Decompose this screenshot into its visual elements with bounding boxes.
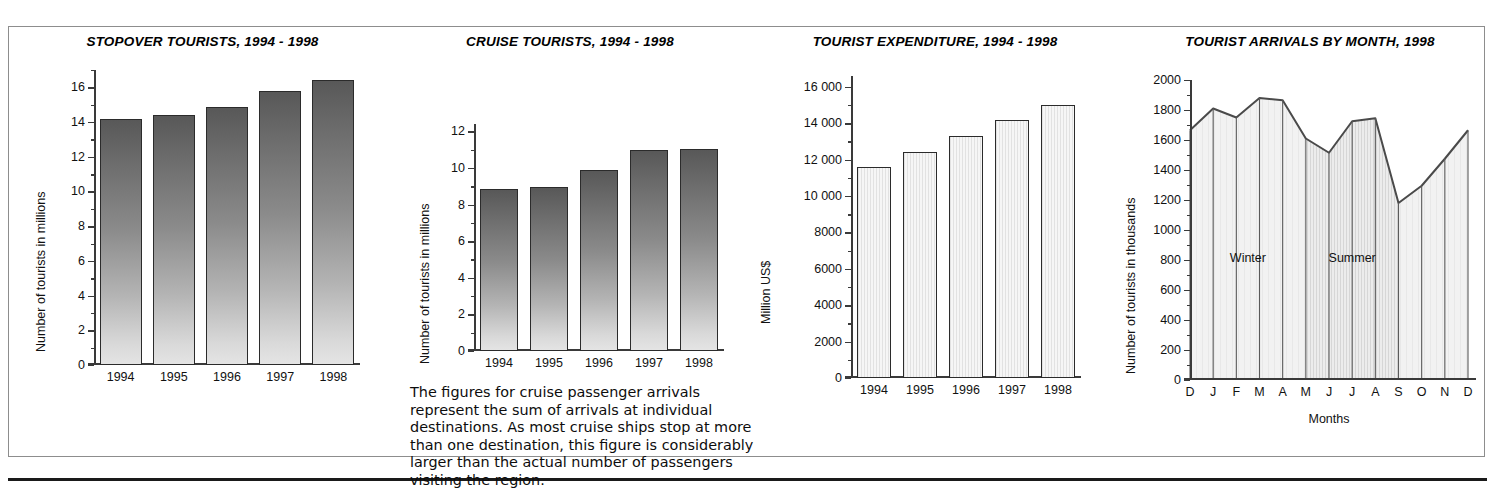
bar [100,119,142,365]
x-tick-label: 1995 [906,383,934,397]
area-fill-hatchLight [1399,130,1469,380]
y-tick-major [845,342,851,343]
y-tick-label: 8 [458,198,465,212]
x-tick-label: A [1371,385,1379,399]
y-tick-minor [91,139,95,140]
y-tick-label: 10 [71,184,85,198]
x-tick-label: 1998 [685,356,713,370]
y-tick-major [468,278,474,279]
y-axis-title-cruise: Number of tourists in millions [418,204,432,364]
plot-area-cruise: 024681012 19941995199619971998 [474,124,724,351]
y-tick-major [88,330,94,331]
y-tick-label: 0 [78,358,85,372]
x-tick-label: 1998 [319,370,347,384]
y-tick-label: 800 [1160,253,1181,267]
chart-title-stopover: STOPOVER TOURISTS, 1994 - 1998 [20,34,385,49]
y-tick-label: 2000 [814,335,842,349]
y-tick-label: 12 [71,150,85,164]
y-tick-minor [1187,155,1191,156]
y-tick-minor [1187,125,1191,126]
x-tick-label: 1995 [535,356,563,370]
y-tick-minor [848,178,852,179]
plot-area-stopover: 0246810121416 19941995199619971998 [94,70,360,365]
y-tick-label: 10 [451,161,465,175]
y-tick-label: 4 [458,271,465,285]
y-tick-major [468,131,474,132]
x-tick-label: F [1233,385,1241,399]
y-tick-label: 0 [835,371,842,385]
y-tick-minor [91,174,95,175]
y-tick-major [88,365,94,366]
y-tick-major [845,123,851,124]
y-tick-minor [91,348,95,349]
y-tick-minor [848,287,852,288]
y-tick-major [468,351,474,352]
y-tick-minor [1187,245,1191,246]
y-tick-minor [1187,365,1191,366]
y-tick-major [1184,170,1190,171]
y-tick-label: 16 [71,80,85,94]
x-tick-label: 1994 [107,370,135,384]
y-tick-major [845,269,851,270]
bar [630,150,668,351]
y-tick-major [1184,320,1190,321]
figure-page: STOPOVER TOURISTS, 1994 - 1998 Number of… [0,0,1495,488]
x-tick-label: J [1326,385,1332,399]
y-tick-major [1184,380,1190,381]
bar [1041,105,1075,378]
y-tick-label: 10 000 [804,189,842,203]
y-tick-major [468,314,474,315]
y-tick-label: 2 [78,323,85,337]
y-axis-line-stopover [94,70,96,365]
x-tick-label: S [1394,385,1402,399]
y-axis-line-cruise [474,124,476,351]
chart-tourist-expenditure: TOURIST EXPENDITURE, 1994 - 1998 Million… [755,34,1105,409]
y-tick-label: 4000 [814,298,842,312]
x-tick-label: O [1417,385,1427,399]
y-tick-major [845,87,851,88]
bar [580,170,618,351]
y-tick-minor [471,186,475,187]
y-tick-major [845,305,851,306]
x-tick-label: J [1349,385,1355,399]
y-tick-major [88,226,94,227]
y-tick-label: 12 000 [804,153,842,167]
y-tick-minor [471,150,475,151]
bar [857,167,891,378]
y-tick-major [468,168,474,169]
y-tick-minor [1187,215,1191,216]
y-tick-major [88,296,94,297]
y-tick-minor [91,278,95,279]
area-series-arrivals [1190,80,1468,380]
bar [530,187,568,351]
bar [903,152,937,379]
y-tick-label: 400 [1160,313,1181,327]
y-tick-label: 1000 [1153,223,1181,237]
x-tick-label: N [1440,385,1449,399]
x-tick-label: M [1301,385,1311,399]
x-axis-title-arrivals: Months [1190,412,1468,426]
y-tick-label: 2 [458,307,465,321]
y-tick-minor [91,313,95,314]
y-tick-minor [1187,185,1191,186]
y-tick-major [845,160,851,161]
chart-title-cruise: CRUISE TOURISTS, 1994 - 1998 [400,34,740,49]
x-tick-label: 1997 [635,356,663,370]
bar [995,120,1029,378]
y-tick-label: 14 [71,115,85,129]
y-tick-major [845,232,851,233]
y-tick-major [88,157,94,158]
y-tick-minor [848,214,852,215]
y-tick-minor [1187,95,1191,96]
y-tick-label: 2000 [1153,73,1181,87]
x-tick-label: A [1278,385,1286,399]
bar [680,149,718,351]
bar [206,107,248,365]
y-tick-major [1184,230,1190,231]
y-tick-label: 6 [78,254,85,268]
y-axis-title-expenditure: Million US$ [759,261,773,324]
x-tick-label: 1996 [585,356,613,370]
x-axis-line-arrivals [1184,378,1476,380]
y-axis-title-arrivals: Number of tourists in thousands [1124,198,1138,374]
y-tick-minor [471,333,475,334]
